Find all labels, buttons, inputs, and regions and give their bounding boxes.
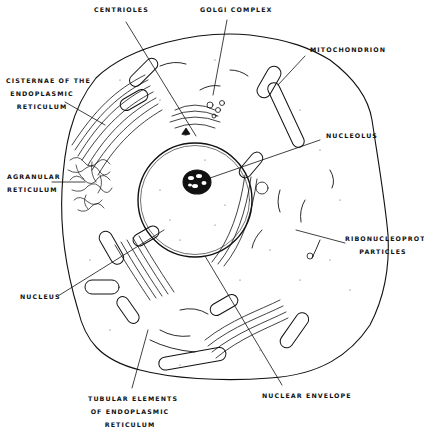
label-line: Tubular Elements <box>88 392 172 405</box>
label-line: Endoplasmic <box>6 87 78 100</box>
label-line: Reticulum <box>6 100 78 113</box>
cell-drawing <box>0 0 424 431</box>
label-line: Particles <box>345 245 421 258</box>
label-line: Reticulum <box>7 183 61 196</box>
label-line: Cisternae of the <box>6 74 78 87</box>
label-tubular-elements: Tubular Elements of Endoplasmic Reticulu… <box>88 392 172 431</box>
golgi-complex <box>170 101 225 129</box>
label-line: Reticulum <box>88 418 172 431</box>
cisternae-er <box>72 75 162 175</box>
label-line: Agranular <box>7 170 61 183</box>
cell-membrane <box>62 34 389 380</box>
centriole <box>182 128 190 135</box>
label-cisternae-er: Cisternae of the Endoplasmic Reticulum <box>6 74 78 113</box>
ribonucleoprotein-particles <box>89 59 350 365</box>
mitochondria <box>85 56 311 371</box>
nucleus-outline <box>138 143 252 257</box>
cell-diagram: Centrioles Golgi Complex Mitochondrion C… <box>0 0 424 431</box>
label-nuclear-envelope: Nuclear Envelope <box>262 389 352 402</box>
label-line: of Endoplasmic <box>88 405 172 418</box>
label-centrioles: Centrioles <box>94 3 149 16</box>
nucleolus <box>183 170 211 194</box>
rough-er-lower <box>115 175 288 358</box>
label-golgi-complex: Golgi Complex <box>200 3 273 16</box>
agranular-reticulum <box>68 157 112 211</box>
label-nucleolus: Nucleolus <box>326 129 378 142</box>
label-ribonucleoprotein-particles: Ribonucleoprotein Particles <box>345 232 421 258</box>
label-agranular-reticulum: Agranular Reticulum <box>7 170 61 196</box>
label-line: Ribonucleoprotein <box>345 232 421 245</box>
label-mitochondrion: Mitochondrion <box>310 43 386 56</box>
label-nucleus: Nucleus <box>20 290 61 303</box>
